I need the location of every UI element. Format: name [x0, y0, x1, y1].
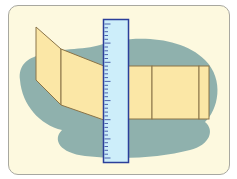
paper-panel-right-3: [199, 66, 209, 119]
folded-paper-ruler-illustration: [0, 0, 237, 179]
ruler: [104, 20, 129, 163]
paper-panel-right-2: [152, 66, 199, 119]
paper-panel-right-1: [128, 66, 152, 119]
